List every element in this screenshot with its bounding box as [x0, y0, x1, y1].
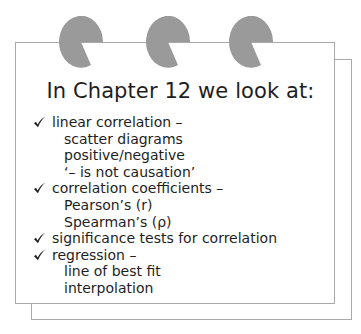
list-item-significance-tests: significance tests for correlation	[33, 230, 277, 247]
sub-item: ‘– is not causation’	[52, 164, 277, 181]
binder-ring-icon	[58, 16, 104, 68]
sub-item: line of best fit	[52, 263, 277, 280]
list-item-regression: regression – line of best fit interpolat…	[33, 247, 277, 297]
binder-ring-icon	[145, 16, 191, 68]
sub-item: Pearson’s (r)	[52, 197, 277, 214]
list-item-correlation-coefficients: correlation coefficients – Pearson’s (r)…	[33, 180, 277, 230]
checkmark-icon	[33, 232, 46, 244]
sub-item: scatter diagrams	[52, 131, 277, 148]
chapter-title: In Chapter 12 we look at:	[0, 78, 361, 104]
checkmark-icon	[33, 116, 46, 128]
list-item-label: correlation coefficients –	[52, 180, 277, 197]
list-item-label: linear correlation –	[52, 114, 277, 131]
sub-item: Spearman’s (ρ)	[52, 214, 277, 231]
binder-ring-icon	[228, 16, 274, 68]
checkmark-icon	[33, 182, 46, 194]
list-item-linear-correlation: linear correlation – scatter diagrams po…	[33, 114, 277, 180]
topic-list: linear correlation – scatter diagrams po…	[33, 114, 277, 297]
list-item-label: significance tests for correlation	[52, 230, 277, 247]
sub-item: interpolation	[52, 280, 277, 297]
sub-item: positive/negative	[52, 147, 277, 164]
list-item-label: regression –	[52, 247, 277, 264]
checkmark-icon	[33, 249, 46, 261]
